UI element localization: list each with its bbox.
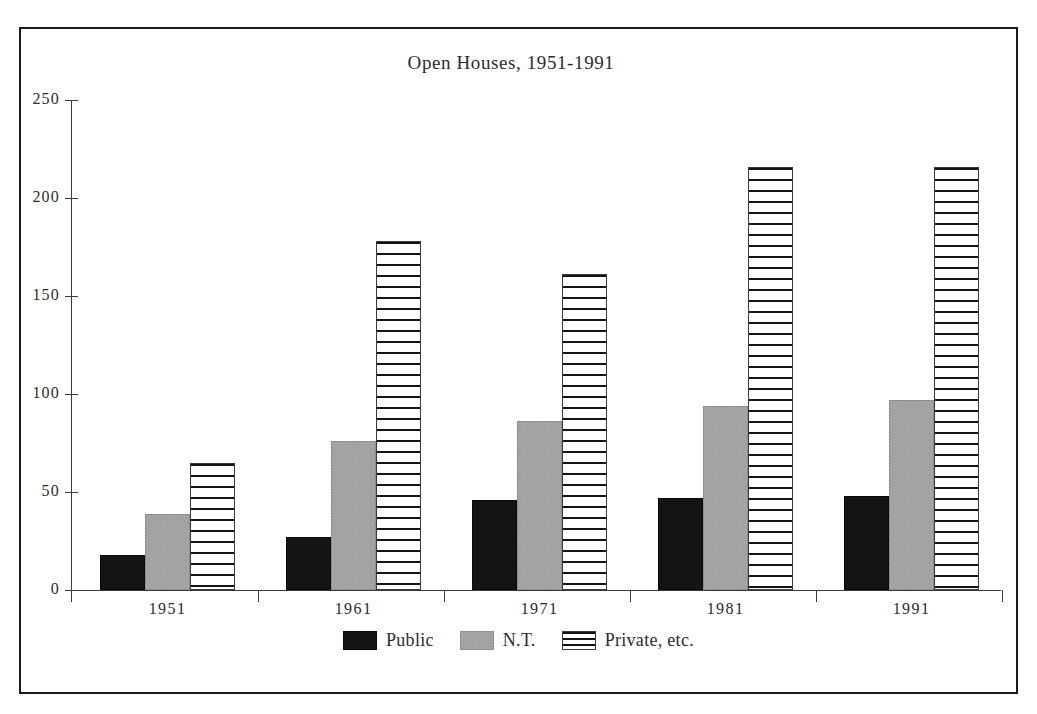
legend-item-label: Private, etc. [605, 630, 694, 651]
plot-area: 050100150200250 19511961197119811991 [0, 0, 1037, 714]
legend-item: N.T. [460, 630, 536, 651]
x-axis-tick [1002, 590, 1003, 602]
y-axis-tick [65, 100, 78, 101]
bar [331, 441, 376, 590]
bar [472, 500, 517, 590]
y-axis-line [71, 100, 72, 591]
legend-item: Public [343, 630, 434, 651]
bar [376, 241, 421, 590]
x-axis-label: 1981 [666, 600, 786, 618]
x-axis-tick-origin [71, 590, 72, 602]
x-axis-label: 1951 [108, 600, 228, 618]
y-axis-tick [65, 296, 78, 297]
x-axis-line [71, 590, 1001, 591]
chart-page: Open Houses, 1951-1991 050100150200250 1… [0, 0, 1037, 714]
x-axis-label: 1961 [294, 600, 414, 618]
bar [748, 167, 793, 590]
legend-item-label: Public [386, 630, 434, 651]
bar [286, 537, 331, 590]
y-axis-label-text: 50 [0, 482, 60, 500]
bar [145, 514, 190, 590]
y-axis-tick [65, 394, 78, 395]
y-axis-label-text: 100 [0, 384, 60, 402]
x-axis-label: 1971 [480, 600, 600, 618]
bar [844, 496, 889, 590]
y-axis-label-text: 200 [0, 188, 60, 206]
y-axis-label-text: 0 [0, 580, 60, 598]
bar [100, 555, 145, 590]
y-axis-tick [65, 492, 78, 493]
bar [934, 167, 979, 590]
bar [190, 463, 235, 590]
x-axis-tick [258, 590, 259, 602]
bar [658, 498, 703, 590]
y-axis-label-text: 250 [0, 90, 60, 108]
x-axis-tick [816, 590, 817, 602]
bar [517, 421, 562, 590]
gray-dither-swatch-icon [460, 631, 494, 650]
chart-legend: PublicN.T.Private, etc. [0, 630, 1037, 651]
legend-item: Private, etc. [562, 630, 694, 651]
striped-swatch-icon [562, 631, 596, 650]
x-axis-tick [630, 590, 631, 602]
bar [703, 406, 748, 590]
legend-item-label: N.T. [503, 630, 536, 651]
y-axis-tick [65, 198, 78, 199]
x-axis-label: 1991 [852, 600, 972, 618]
solid-black-swatch-icon [343, 631, 377, 650]
x-axis-tick [444, 590, 445, 602]
y-axis-label-text: 150 [0, 286, 60, 304]
bar [562, 274, 607, 590]
bar [889, 400, 934, 590]
